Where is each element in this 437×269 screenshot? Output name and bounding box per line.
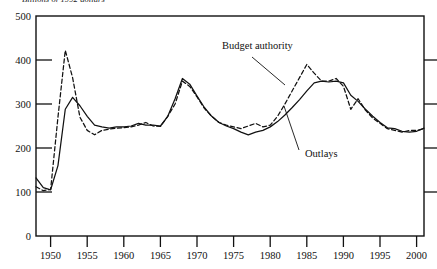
series-budget-authority-line xyxy=(36,50,424,190)
x-axis-label-2000: 2000 xyxy=(406,250,427,261)
defense-spending-chart-figure: Billions of 1992 dollars 500 400 300 200… xyxy=(0,0,437,269)
x-axis-ticks xyxy=(51,236,417,247)
chart-canvas: 500 400 300 200 100 0 1950 1955 1960 xyxy=(0,0,437,269)
y-axis-label-500: 500 xyxy=(15,11,31,22)
outlays-leader-line xyxy=(284,106,299,150)
budget-authority-annotation-label: Budget authority xyxy=(222,40,294,51)
x-axis-label-1970: 1970 xyxy=(187,250,208,261)
y-axis-label-0: 0 xyxy=(26,231,31,242)
x-axis-label-1950: 1950 xyxy=(40,250,61,261)
x-axis-label-1990: 1990 xyxy=(333,250,354,261)
budget-authority-leader-line xyxy=(252,57,285,85)
y-axis-ticks-left xyxy=(36,60,52,192)
x-axis-label-1965: 1965 xyxy=(150,250,171,261)
x-axis-label-1985: 1985 xyxy=(296,250,317,261)
y-axis-labels: 500 400 300 200 100 0 xyxy=(15,11,31,242)
x-axis-labels: 1950 1955 1960 1965 1970 1975 1980 1985 … xyxy=(40,250,427,261)
x-axis-label-1955: 1955 xyxy=(77,250,98,261)
y-axis-ticks-right xyxy=(424,60,437,192)
x-axis-label-1980: 1980 xyxy=(260,250,281,261)
y-axis-label-200: 200 xyxy=(15,143,31,154)
x-axis-label-1995: 1995 xyxy=(370,250,391,261)
x-axis-label-1960: 1960 xyxy=(113,250,134,261)
y-axis-label-400: 400 xyxy=(15,55,31,66)
y-axis-label-300: 300 xyxy=(15,99,31,110)
chart-subtitle: Billions of 1992 dollars xyxy=(22,0,105,2)
x-axis-label-1975: 1975 xyxy=(223,250,244,261)
outlays-annotation-label: Outlays xyxy=(305,148,338,159)
y-axis-label-100: 100 xyxy=(15,187,31,198)
